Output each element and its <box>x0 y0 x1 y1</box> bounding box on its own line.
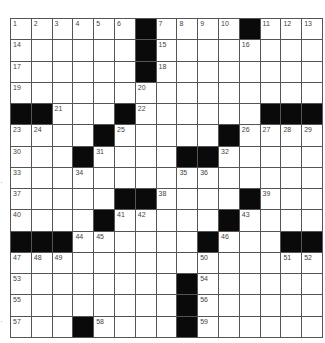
grid-cell[interactable] <box>73 295 93 315</box>
grid-cell[interactable]: 47 <box>11 253 31 273</box>
grid-cell[interactable]: 15 <box>157 40 177 60</box>
grid-cell[interactable] <box>32 317 52 337</box>
grid-cell[interactable] <box>261 253 281 273</box>
grid-cell[interactable] <box>302 40 322 60</box>
grid-cell[interactable]: 49 <box>53 253 73 273</box>
grid-cell[interactable] <box>53 274 73 294</box>
grid-cell[interactable]: 39 <box>261 189 281 209</box>
grid-cell[interactable]: 57 <box>11 317 31 337</box>
grid-cell[interactable] <box>53 189 73 209</box>
grid-cell[interactable] <box>302 62 322 82</box>
grid-cell[interactable] <box>32 189 52 209</box>
grid-cell[interactable] <box>219 295 239 315</box>
grid-cell[interactable] <box>281 210 301 230</box>
grid-cell[interactable]: 51 <box>281 253 301 273</box>
grid-cell[interactable]: 48 <box>32 253 52 273</box>
grid-cell[interactable]: 14 <box>11 40 31 60</box>
grid-cell[interactable] <box>177 232 197 252</box>
grid-cell[interactable]: 17 <box>11 62 31 82</box>
grid-cell[interactable] <box>302 317 322 337</box>
grid-cell[interactable]: 9 <box>198 19 218 39</box>
grid-cell[interactable]: 16 <box>240 40 260 60</box>
grid-cell[interactable] <box>219 168 239 188</box>
grid-cell[interactable]: 22 <box>136 104 156 124</box>
grid-cell[interactable] <box>281 168 301 188</box>
grid-cell[interactable] <box>115 40 135 60</box>
grid-cell[interactable] <box>261 295 281 315</box>
grid-cell[interactable] <box>73 104 93 124</box>
grid-cell[interactable] <box>73 83 93 103</box>
grid-cell[interactable] <box>32 210 52 230</box>
grid-cell[interactable] <box>281 62 301 82</box>
grid-cell[interactable]: 46 <box>219 232 239 252</box>
grid-cell[interactable] <box>73 189 93 209</box>
grid-cell[interactable] <box>157 232 177 252</box>
grid-cell[interactable] <box>198 210 218 230</box>
grid-cell[interactable] <box>73 125 93 145</box>
grid-cell[interactable] <box>53 317 73 337</box>
grid-cell[interactable] <box>219 104 239 124</box>
grid-cell[interactable] <box>115 295 135 315</box>
grid-cell[interactable] <box>261 147 281 167</box>
grid-cell[interactable] <box>157 125 177 145</box>
grid-cell[interactable] <box>157 104 177 124</box>
grid-cell[interactable]: 44 <box>73 232 93 252</box>
grid-cell[interactable] <box>177 125 197 145</box>
grid-cell[interactable] <box>136 295 156 315</box>
grid-cell[interactable]: 26 <box>240 125 260 145</box>
grid-cell[interactable]: 31 <box>94 147 114 167</box>
grid-cell[interactable] <box>157 83 177 103</box>
grid-cell[interactable] <box>302 83 322 103</box>
grid-cell[interactable]: 13 <box>302 19 322 39</box>
grid-cell[interactable] <box>115 253 135 273</box>
grid-cell[interactable]: 27 <box>261 125 281 145</box>
grid-cell[interactable] <box>302 189 322 209</box>
grid-cell[interactable] <box>198 62 218 82</box>
grid-cell[interactable] <box>157 147 177 167</box>
grid-cell[interactable]: 53 <box>11 274 31 294</box>
grid-cell[interactable] <box>53 125 73 145</box>
grid-cell[interactable] <box>73 274 93 294</box>
grid-cell[interactable]: 21 <box>53 104 73 124</box>
grid-cell[interactable] <box>198 40 218 60</box>
grid-cell[interactable] <box>198 104 218 124</box>
grid-cell[interactable] <box>240 317 260 337</box>
grid-cell[interactable] <box>219 317 239 337</box>
grid-cell[interactable] <box>157 210 177 230</box>
grid-cell[interactable] <box>302 295 322 315</box>
grid-cell[interactable] <box>177 40 197 60</box>
grid-cell[interactable] <box>136 168 156 188</box>
grid-cell[interactable] <box>73 210 93 230</box>
grid-cell[interactable] <box>177 83 197 103</box>
grid-cell[interactable] <box>240 295 260 315</box>
grid-cell[interactable]: 7 <box>157 19 177 39</box>
grid-cell[interactable] <box>53 210 73 230</box>
grid-cell[interactable]: 40 <box>11 210 31 230</box>
grid-cell[interactable]: 59 <box>198 317 218 337</box>
grid-cell[interactable] <box>136 147 156 167</box>
grid-cell[interactable] <box>32 40 52 60</box>
grid-cell[interactable]: 24 <box>32 125 52 145</box>
grid-cell[interactable]: 8 <box>177 19 197 39</box>
grid-cell[interactable] <box>32 62 52 82</box>
grid-cell[interactable] <box>281 295 301 315</box>
grid-cell[interactable] <box>157 168 177 188</box>
grid-cell[interactable] <box>94 83 114 103</box>
grid-cell[interactable] <box>53 40 73 60</box>
grid-cell[interactable] <box>94 189 114 209</box>
grid-cell[interactable] <box>177 189 197 209</box>
grid-cell[interactable] <box>94 168 114 188</box>
grid-cell[interactable] <box>219 189 239 209</box>
grid-cell[interactable] <box>136 232 156 252</box>
grid-cell[interactable] <box>115 274 135 294</box>
grid-cell[interactable]: 56 <box>198 295 218 315</box>
grid-cell[interactable]: 12 <box>281 19 301 39</box>
grid-cell[interactable] <box>240 253 260 273</box>
grid-cell[interactable] <box>73 62 93 82</box>
grid-cell[interactable] <box>32 274 52 294</box>
grid-cell[interactable] <box>136 125 156 145</box>
grid-cell[interactable] <box>261 210 281 230</box>
grid-cell[interactable] <box>240 274 260 294</box>
grid-cell[interactable] <box>261 168 281 188</box>
grid-cell[interactable] <box>302 147 322 167</box>
